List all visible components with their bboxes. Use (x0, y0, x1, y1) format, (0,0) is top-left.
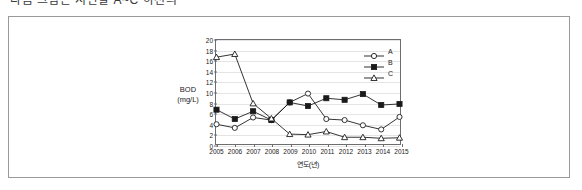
y-tick-label: 14 (206, 68, 213, 75)
data-point-B-2007 (251, 109, 256, 114)
x-tick-label: 2011 (321, 148, 335, 155)
legend-item-C: C (363, 68, 393, 79)
data-point-C-2011 (323, 128, 329, 133)
series-line-A (216, 94, 399, 130)
legend-marker-open-circle-icon (363, 47, 385, 57)
figure-box: BOD (mg/L) 02468101214161820 20052006200… (8, 16, 570, 178)
y-axis-title: BOD (mg/L) (165, 85, 211, 104)
data-point-A-2010 (305, 91, 310, 96)
x-tick-mark (383, 144, 384, 147)
legend-marker-filled-square-icon (363, 58, 385, 68)
y-axis-title-line2: (mg/L) (165, 95, 211, 105)
x-tick-mark (272, 144, 273, 147)
x-tick-mark (235, 144, 236, 147)
data-point-A-2006 (232, 125, 237, 130)
data-point-A-2012 (342, 118, 347, 123)
x-tick-mark (402, 144, 403, 147)
data-point-A-2014 (379, 127, 384, 132)
x-tick-label: 2009 (283, 148, 297, 155)
x-tick-mark (309, 144, 310, 147)
x-tick-label: 2010 (302, 148, 316, 155)
x-axis-title: 연도(년) (215, 159, 401, 169)
x-tick-label: 2013 (357, 148, 371, 155)
x-tick-label: 2015 (394, 148, 408, 155)
legend-label-C: C (388, 69, 393, 79)
x-tick-label: 2005 (209, 148, 223, 155)
data-point-C-2007 (250, 100, 256, 105)
series-A (214, 91, 402, 132)
x-tick-mark (328, 144, 329, 147)
data-point-B-2006 (232, 116, 237, 121)
y-tick-label: 4 (209, 121, 213, 128)
y-tick-label: 10 (206, 90, 213, 97)
data-point-A-2015 (397, 114, 402, 119)
x-tick-mark (346, 144, 347, 147)
data-point-B-2014 (379, 102, 384, 107)
data-point-B-2012 (342, 97, 347, 102)
chart-legend: ABC (361, 44, 396, 81)
x-tick-mark (291, 144, 292, 147)
x-tick-label: 2007 (246, 148, 260, 155)
data-point-B-2009 (287, 100, 292, 105)
y-tick-label: 2 (209, 132, 213, 139)
y-tick-label: 6 (209, 111, 213, 118)
gridline (216, 146, 400, 147)
data-point-A-2005 (214, 122, 219, 127)
plot-area: 02468101214161820 2005200620072008200920… (215, 39, 401, 145)
legend-label-A: A (388, 47, 393, 57)
legend-item-A: A (363, 46, 393, 57)
legend-marker-open-triangle-icon (363, 69, 385, 79)
x-tick-mark (217, 144, 218, 147)
page-caption-text: 다음 그림은 지난날 A~C 하천의 (10, 0, 177, 7)
x-tick-label: 2012 (339, 148, 353, 155)
page-caption-strip: 다음 그림은 지난날 A~C 하천의 (0, 0, 582, 11)
data-point-B-2010 (305, 103, 310, 108)
y-axis-title-line1: BOD (165, 85, 211, 95)
y-tick-label: 18 (206, 47, 213, 54)
data-point-B-2011 (324, 96, 329, 101)
data-point-B-2005 (214, 107, 219, 112)
y-tick-label: 16 (206, 58, 213, 65)
x-tick-mark (365, 144, 366, 147)
data-point-B-2013 (360, 92, 365, 97)
legend-label-B: B (388, 58, 393, 68)
y-tick-label: 20 (206, 37, 213, 44)
data-point-A-2007 (251, 115, 256, 120)
x-tick-label: 2006 (228, 148, 242, 155)
y-tick-label: 12 (206, 79, 213, 86)
bod-line-chart: BOD (mg/L) 02468101214161820 20052006200… (159, 35, 439, 175)
data-point-A-2011 (324, 116, 329, 121)
x-tick-label: 2008 (265, 148, 279, 155)
x-tick-label: 2014 (376, 148, 390, 155)
legend-item-B: B (363, 57, 393, 68)
data-point-C-2006 (232, 51, 238, 56)
data-point-A-2013 (360, 123, 365, 128)
x-tick-mark (254, 144, 255, 147)
y-tick-label: 8 (209, 100, 213, 107)
data-point-B-2015 (397, 101, 402, 106)
